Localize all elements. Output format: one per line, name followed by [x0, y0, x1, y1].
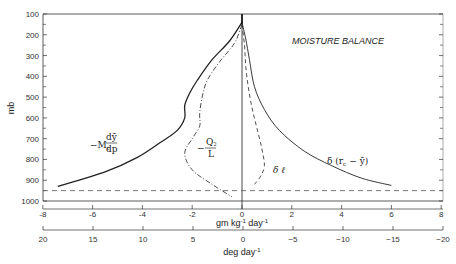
svg-text:dp: dp [106, 144, 118, 154]
y-tick-label: 900 [26, 176, 40, 185]
x2-tick-label: −20 [436, 235, 450, 244]
y-tick-label: 1000 [21, 197, 39, 206]
chart-title: MOISTURE BALANCE [292, 36, 385, 46]
annotation-delta-l: δ ℓ [273, 165, 285, 175]
svg-text:L: L [208, 149, 214, 159]
series-delta-l [242, 24, 264, 184]
x1-tick-label: 6 [389, 210, 394, 219]
x2-tick-label: 5 [191, 235, 196, 244]
x1-tick-label: -6 [89, 210, 97, 219]
x2-tick-label: 0 [241, 235, 246, 244]
y-tick-label: 400 [26, 72, 40, 81]
y-tick-label: 700 [26, 135, 40, 144]
x2-tick-label: −5 [288, 235, 298, 244]
y-tick-label: 600 [26, 114, 40, 123]
annotation-mc-dr-dp: −Mc dȳ dp [90, 132, 118, 154]
x1-tick-label: 8 [439, 210, 444, 219]
x2-tick-label: −10 [336, 235, 350, 244]
y-tick-label: 500 [26, 93, 40, 102]
svg-text:dȳ: dȳ [106, 132, 118, 142]
y-tick-label: 800 [26, 155, 40, 164]
x1-tick-label: 2 [290, 210, 295, 219]
x2-tick-label: 20 [39, 235, 48, 244]
x1-tick-label: -8 [39, 210, 47, 219]
moisture-balance-chart: 1002003004005006007008009001000 -8-6-4-2… [0, 0, 456, 264]
series-delta-rc-r [242, 22, 391, 185]
x1-tick-label: 4 [339, 210, 344, 219]
series-q2-over-l [185, 24, 242, 196]
y-tick-label: 200 [26, 31, 40, 40]
y-tick-label: 100 [26, 10, 40, 19]
x2-tick-label: −15 [386, 235, 400, 244]
y-tick-label: 300 [26, 52, 40, 61]
annotation-q2-over-l: − Q2 L [197, 137, 217, 159]
x-axis-2-label: deg day-1 [223, 247, 261, 257]
x-axis-deg-day: 20151050−5−10−15−20 [39, 226, 451, 244]
x1-tick-label: -2 [189, 210, 197, 219]
x-axis-1-label: gm kg-1 day-1 [216, 218, 269, 228]
y-axis-label: mb [6, 102, 16, 115]
series-mc-dr-dp [58, 22, 242, 186]
annotation-delta-rc-r: δ (rc − ȳ) [327, 156, 368, 167]
svg-text:−: − [197, 143, 205, 153]
x1-tick-label: -4 [139, 210, 147, 219]
x2-tick-label: 10 [139, 235, 148, 244]
svg-text:Q2: Q2 [206, 137, 217, 147]
x2-tick-label: 15 [89, 235, 98, 244]
